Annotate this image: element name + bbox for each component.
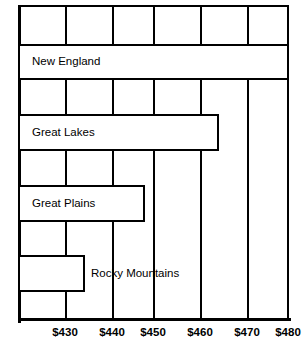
x-tick-label-440: $440 (99, 327, 125, 339)
bar-rocky-mountains[interactable] (18, 255, 85, 292)
bar-chart: New EnglandGreat LakesGreat PlainsRocky … (0, 0, 304, 353)
x-tick-label-480: $480 (275, 327, 301, 339)
bar-label: New England (32, 56, 100, 68)
x-tick-label-450: $450 (140, 327, 166, 339)
bar-label: Great Lakes (32, 127, 95, 139)
bar-great-plains[interactable]: Great Plains (18, 185, 145, 222)
x-tick-label-460: $460 (187, 327, 213, 339)
bar-new-england[interactable]: New England (18, 44, 289, 80)
x-tick-label-470: $470 (234, 327, 260, 339)
bar-great-lakes[interactable]: Great Lakes (18, 114, 219, 151)
bar-label: Great Plains (32, 198, 95, 210)
bar-label: Rocky Mountains (91, 268, 179, 280)
x-tick-label-430: $430 (52, 327, 78, 339)
